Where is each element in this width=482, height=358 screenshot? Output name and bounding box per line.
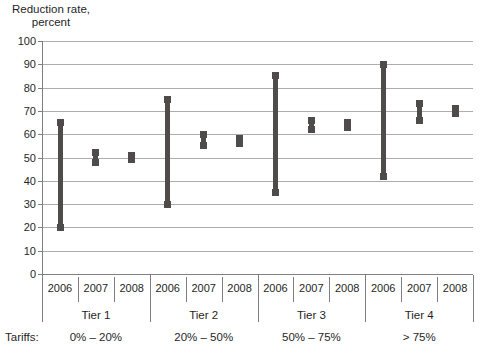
y-axis-line [42, 41, 43, 277]
range-bar-high-cap [416, 100, 423, 107]
y-tick-label: 10 [0, 244, 36, 258]
y-tick-label: 60 [0, 127, 36, 141]
year-label: 2007 [401, 281, 437, 295]
tariff-range-label: 50% – 75% [258, 330, 366, 344]
range-bar-low-cap [344, 124, 351, 131]
year-label: 2007 [186, 281, 222, 295]
year-separator [222, 277, 223, 302]
tier-label: Tier 4 [365, 308, 473, 322]
y-axis-tick [38, 181, 42, 182]
y-axis-tick [38, 64, 42, 65]
range-bar-low-cap [92, 159, 99, 166]
year-label: 2006 [258, 281, 294, 295]
year-label: 2008 [222, 281, 258, 295]
y-tick-label: 100 [0, 34, 36, 48]
y-tick-label: 0 [0, 267, 36, 281]
y-tick-label: 30 [0, 197, 36, 211]
y-axis-tick [38, 88, 42, 89]
y-tick-label: 70 [0, 104, 36, 118]
y-axis-tick [38, 204, 42, 205]
y-axis-title-line1: Reduction rate, [8, 3, 94, 16]
year-label: 2008 [329, 281, 365, 295]
gridline [42, 88, 473, 89]
y-axis-title: Reduction rate, percent [8, 3, 94, 29]
y-tick-label: 50 [0, 151, 36, 165]
range-bar [58, 123, 63, 228]
range-bar-low-cap [57, 224, 64, 231]
year-separator [114, 277, 115, 302]
year-label: 2006 [365, 281, 401, 295]
tariff-range-label: 0% – 20% [42, 330, 150, 344]
year-label: 2006 [150, 281, 186, 295]
tier-separator [473, 275, 474, 322]
y-axis-tick [38, 134, 42, 135]
y-tick-label: 40 [0, 174, 36, 188]
gridline [42, 111, 473, 112]
year-separator [78, 277, 79, 302]
range-bar-low-cap [272, 189, 279, 196]
range-bar-low-cap [308, 126, 315, 133]
tariff-range-label: 20% – 50% [150, 330, 258, 344]
range-bar-high-cap [92, 149, 99, 156]
range-bar-high-cap [380, 61, 387, 68]
year-separator [401, 277, 402, 302]
range-bar-low-cap [128, 156, 135, 163]
year-label: 2008 [437, 281, 473, 295]
range-bar-low-cap [380, 173, 387, 180]
y-tick-label: 20 [0, 220, 36, 234]
gridline [42, 251, 473, 252]
range-bar-high-cap [200, 131, 207, 138]
y-axis-tick [38, 227, 42, 228]
tier-label: Tier 2 [150, 308, 258, 322]
range-bar [273, 76, 278, 193]
chart-canvas: Reduction rate, percent 0102030405060708… [0, 0, 482, 358]
tariff-range-label: > 75% [365, 330, 473, 344]
gridline [42, 64, 473, 65]
gridline [42, 134, 473, 135]
range-bar [165, 99, 170, 204]
y-tick-label: 90 [0, 57, 36, 71]
range-bar-high-cap [57, 119, 64, 126]
year-separator [186, 277, 187, 302]
year-separator [293, 277, 294, 302]
range-bar-low-cap [164, 201, 171, 208]
y-axis-tick [38, 251, 42, 252]
gridline [42, 204, 473, 205]
tariffs-caption: Tariffs: [5, 330, 39, 344]
y-axis-tick [38, 41, 42, 42]
plot-area [42, 41, 473, 274]
year-label: 2008 [114, 281, 150, 295]
year-label: 2006 [42, 281, 78, 295]
tier-label: Tier 1 [42, 308, 150, 322]
y-axis-tick [38, 158, 42, 159]
y-axis-title-line2: percent [8, 16, 94, 29]
year-label: 2007 [78, 281, 114, 295]
gridline [42, 158, 473, 159]
gridline [42, 181, 473, 182]
year-separator [437, 277, 438, 302]
y-axis-tick [38, 111, 42, 112]
tier-label: Tier 3 [258, 308, 366, 322]
range-bar-high-cap [272, 72, 279, 79]
gridline [42, 41, 473, 42]
range-bar-low-cap [416, 117, 423, 124]
range-bar-low-cap [200, 142, 207, 149]
range-bar-high-cap [308, 117, 315, 124]
range-bar [381, 64, 386, 176]
gridline [42, 227, 473, 228]
range-bar-low-cap [236, 140, 243, 147]
range-bar-low-cap [452, 110, 459, 117]
year-label: 2007 [293, 281, 329, 295]
range-bar-high-cap [164, 96, 171, 103]
year-separator [329, 277, 330, 302]
y-tick-label: 80 [0, 81, 36, 95]
